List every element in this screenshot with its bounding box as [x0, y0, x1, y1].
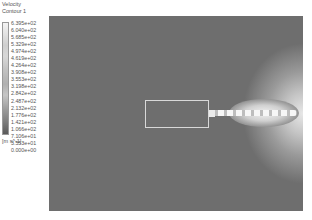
tick: 3.553e+02: [11, 76, 36, 83]
tick: 2.132e+02: [11, 105, 36, 112]
body-outline: [145, 100, 209, 128]
legend-contour-name: Contour 1: [2, 8, 26, 15]
colorbar: [2, 22, 9, 135]
tick: 5.685e+02: [11, 34, 36, 41]
tick: 6.040e+02: [11, 27, 36, 34]
tick: 1.776e+02: [11, 112, 36, 119]
tick: 3.908e+02: [11, 69, 36, 76]
units-label: [m s^-1]: [2, 138, 21, 144]
jet-core: [209, 110, 297, 116]
tick: 4.974e+02: [11, 48, 36, 55]
tick: 2.842e+02: [11, 90, 36, 97]
legend-title: Velocity Contour 1: [2, 1, 26, 14]
tick: 1.421e+02: [11, 119, 36, 126]
tick: 6.395e+02: [11, 20, 36, 27]
tick: 4.619e+02: [11, 55, 36, 62]
colorbar-ticks: 6.395e+02 6.040e+02 5.685e+02 5.329e+02 …: [11, 20, 36, 154]
tick: 1.066e+02: [11, 126, 36, 133]
tick: 4.264e+02: [11, 62, 36, 69]
tick: 3.198e+02: [11, 83, 36, 90]
tick: 2.487e+02: [11, 98, 36, 105]
tick: 5.329e+02: [11, 41, 36, 48]
nozzle-tip: [209, 110, 215, 117]
tick: 0.000e+00: [11, 147, 36, 154]
contour-plot[interactable]: [49, 16, 303, 211]
